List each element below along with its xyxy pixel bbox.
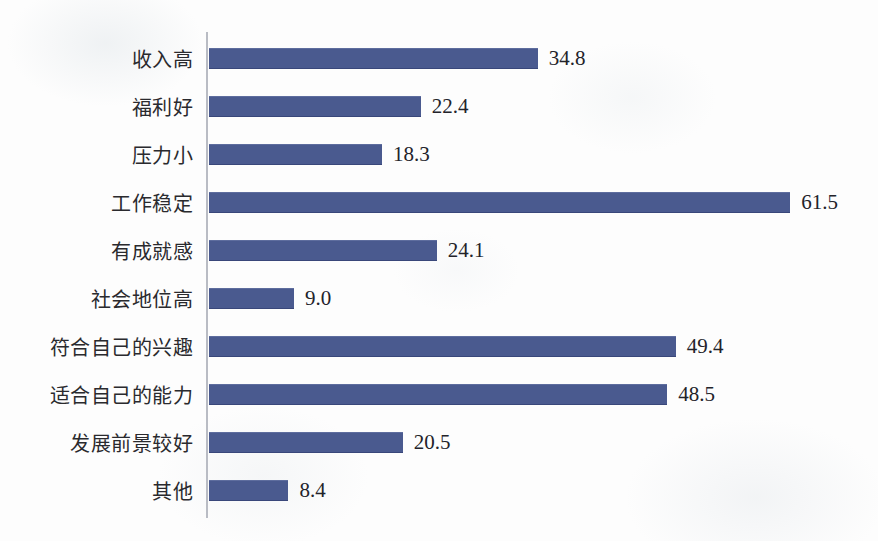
category-label: 社会地位高 [0, 274, 193, 322]
bar-track: 61.5 [209, 178, 838, 226]
bar-value-label: 24.1 [448, 240, 485, 261]
bar-fill [209, 384, 667, 405]
bar-track: 20.5 [209, 418, 450, 466]
category-label: 有成就感 [0, 226, 193, 274]
bar-row: 社会地位高9.0 [0, 274, 878, 322]
bar-track: 48.5 [209, 370, 715, 418]
category-label: 收入高 [0, 34, 193, 82]
bar-value-label: 9.0 [305, 288, 331, 309]
bar-row: 福利好22.4 [0, 82, 878, 130]
bar-fill [209, 480, 288, 501]
category-label: 压力小 [0, 130, 193, 178]
category-label: 工作稳定 [0, 178, 193, 226]
bar-row: 压力小18.3 [0, 130, 878, 178]
bar-fill [209, 336, 676, 357]
bar-fill [209, 240, 437, 261]
bar-track: 8.4 [209, 466, 326, 514]
bar-fill [209, 288, 294, 309]
bar-value-label: 34.8 [549, 48, 586, 69]
bar-value-label: 49.4 [687, 336, 724, 357]
bar-track: 9.0 [209, 274, 331, 322]
bar-value-label: 8.4 [299, 480, 325, 501]
bar-fill [209, 192, 790, 213]
bar-fill [209, 96, 421, 117]
horizontal-bar-chart: 收入高34.8福利好22.4压力小18.3工作稳定61.5有成就感24.1社会地… [0, 0, 878, 541]
category-label: 其他 [0, 466, 193, 514]
bar-row: 其他8.4 [0, 466, 878, 514]
bar-track: 22.4 [209, 82, 468, 130]
bar-fill [209, 432, 403, 453]
bar-value-label: 61.5 [801, 192, 838, 213]
category-label: 福利好 [0, 82, 193, 130]
plot-area: 收入高34.8福利好22.4压力小18.3工作稳定61.5有成就感24.1社会地… [0, 0, 878, 541]
bar-track: 24.1 [209, 226, 484, 274]
bar-value-label: 22.4 [432, 96, 469, 117]
bar-fill [209, 48, 538, 69]
category-label: 符合自己的兴趣 [0, 322, 193, 370]
bar-row: 符合自己的兴趣49.4 [0, 322, 878, 370]
category-label: 适合自己的能力 [0, 370, 193, 418]
bar-row: 发展前景较好20.5 [0, 418, 878, 466]
bar-value-label: 48.5 [678, 384, 715, 405]
bar-track: 49.4 [209, 322, 724, 370]
category-label: 发展前景较好 [0, 418, 193, 466]
bar-row: 收入高34.8 [0, 34, 878, 82]
bar-value-label: 18.3 [393, 144, 430, 165]
bar-row: 有成就感24.1 [0, 226, 878, 274]
bar-track: 34.8 [209, 34, 586, 82]
bar-row: 适合自己的能力48.5 [0, 370, 878, 418]
bar-row: 工作稳定61.5 [0, 178, 878, 226]
bar-track: 18.3 [209, 130, 430, 178]
bar-fill [209, 144, 382, 165]
bar-value-label: 20.5 [414, 432, 451, 453]
